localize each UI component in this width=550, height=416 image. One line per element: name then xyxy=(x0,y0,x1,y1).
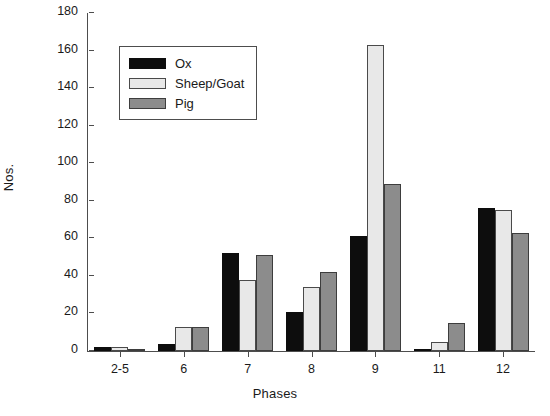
legend-item-ox: Ox xyxy=(129,53,244,73)
bar-pig-11 xyxy=(448,323,465,351)
legend-label: Ox xyxy=(175,56,192,71)
bar-group-bars xyxy=(407,13,471,351)
legend-swatch-icon xyxy=(129,78,166,89)
bar-pig-7 xyxy=(256,255,273,351)
bar-sheep-goat-11 xyxy=(431,342,448,351)
bar-pig-2-5 xyxy=(128,349,145,351)
x-tick-mark xyxy=(375,352,376,357)
y-axis-title: Nos. xyxy=(1,148,16,208)
bar-group xyxy=(343,13,407,351)
x-tick-label: 8 xyxy=(308,362,315,376)
bar-sheep-goat-7 xyxy=(239,280,256,351)
bar-group-bars xyxy=(471,13,535,351)
x-tick-label: 12 xyxy=(496,362,510,376)
bar-sheep-goat-9 xyxy=(367,45,384,351)
bar-pig-6 xyxy=(192,327,209,351)
bar-ox-12 xyxy=(478,208,495,351)
bar-ox-11 xyxy=(414,349,431,351)
bar-ox-6 xyxy=(158,344,175,352)
bar-group-bars xyxy=(280,13,344,351)
bar-sheep-goat-2-5 xyxy=(111,347,128,351)
bar-sheep-goat-12 xyxy=(495,210,512,351)
x-tick-label: 9 xyxy=(372,362,379,376)
y-tick-label: 80 xyxy=(64,192,78,206)
y-tick-label: 20 xyxy=(64,304,78,318)
y-tick-label: 40 xyxy=(64,267,78,281)
legend-item-sheep-goat: Sheep/Goat xyxy=(129,73,244,93)
legend-label: Pig xyxy=(175,96,194,111)
x-tick-mark xyxy=(248,352,249,357)
legend-item-pig: Pig xyxy=(129,93,244,113)
y-tick-label: 140 xyxy=(57,79,78,93)
y-tick-label: 0 xyxy=(71,342,78,356)
bar-sheep-goat-8 xyxy=(303,287,320,351)
y-tick-label: 180 xyxy=(57,4,78,18)
bar-group xyxy=(280,13,344,351)
bar-pig-12 xyxy=(512,233,529,351)
bar-sheep-goat-6 xyxy=(175,327,192,351)
legend: OxSheep/GoatPig xyxy=(119,46,257,120)
y-tick-label: 120 xyxy=(57,117,78,131)
bar-pig-9 xyxy=(384,184,401,351)
bar-ox-2-5 xyxy=(94,347,111,351)
x-tick-mark xyxy=(184,352,185,357)
x-axis-title: Phases xyxy=(0,386,550,401)
x-tick-label: 11 xyxy=(433,362,446,376)
legend-swatch-icon xyxy=(129,58,166,69)
x-tick-mark xyxy=(439,352,440,357)
bar-ox-7 xyxy=(222,253,239,351)
x-tick-mark xyxy=(312,352,313,357)
bar-chart: Nos. 020406080100120140160180 2-56789111… xyxy=(0,0,550,416)
legend-swatch-icon xyxy=(129,98,166,109)
bar-ox-9 xyxy=(350,236,367,351)
bar-pig-8 xyxy=(320,272,337,351)
x-tick-label: 6 xyxy=(180,362,187,376)
legend-label: Sheep/Goat xyxy=(175,76,244,91)
x-tick-label: 7 xyxy=(244,362,251,376)
bar-group xyxy=(407,13,471,351)
y-tick-label: 100 xyxy=(57,154,78,168)
bar-ox-8 xyxy=(286,312,303,351)
bar-group-bars xyxy=(343,13,407,351)
x-tick-label: 2-5 xyxy=(111,362,129,376)
bar-group xyxy=(471,13,535,351)
x-tick-mark xyxy=(120,352,121,357)
x-tick-mark xyxy=(503,352,504,357)
y-tick-label: 160 xyxy=(57,42,78,56)
y-tick-label: 60 xyxy=(64,229,78,243)
